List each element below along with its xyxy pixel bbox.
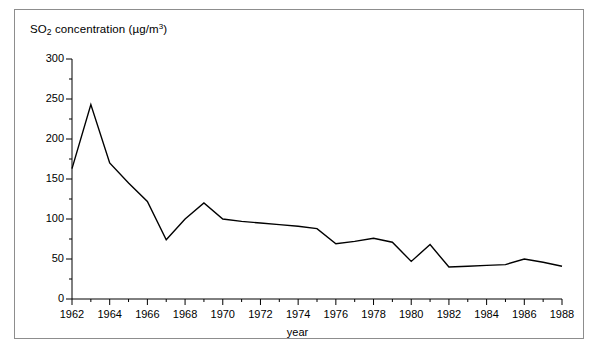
figure-caption <box>16 345 316 355</box>
data-series-line <box>72 105 562 267</box>
y-tick-label: 200 <box>28 132 64 144</box>
y-tick-label: 250 <box>28 92 64 104</box>
y-tick-label: 50 <box>28 252 64 264</box>
y-tick-label: 100 <box>28 212 64 224</box>
y-tick-label: 300 <box>28 52 64 64</box>
axis-lines <box>72 59 562 299</box>
y-tick-label: 150 <box>28 172 64 184</box>
figure-page: SO2 concentration (µg/m3) 05010015020025… <box>0 0 595 357</box>
x-axis-title: year <box>0 326 595 338</box>
x-tick-label: 1988 <box>538 308 586 320</box>
line-chart-plot <box>0 0 595 357</box>
y-axis-ticks <box>66 59 72 299</box>
y-tick-label: 0 <box>28 292 64 304</box>
x-axis-ticks <box>72 299 562 305</box>
